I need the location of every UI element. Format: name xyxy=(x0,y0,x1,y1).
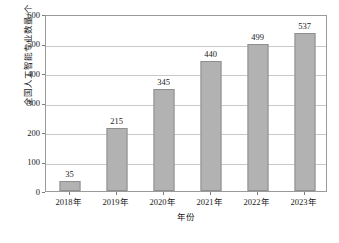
x-axis-tick-label: 2021年 xyxy=(197,197,223,208)
bar-value-label: 215 xyxy=(110,117,123,126)
x-axis-tick-mark xyxy=(210,192,211,195)
bar-slot: 215 xyxy=(93,16,140,191)
x-axis-tick-mark xyxy=(257,192,258,195)
y-axis-tick-label: 0 xyxy=(0,188,40,197)
bar-slot: 499 xyxy=(234,16,281,191)
y-axis-tick-label: 300 xyxy=(0,99,40,108)
bar[interactable] xyxy=(153,89,174,191)
x-axis-title: 年份 xyxy=(45,212,327,223)
x-axis-tick-mark xyxy=(304,192,305,195)
bar-slot: 440 xyxy=(187,16,234,191)
y-axis-tick-labels: 0100200300400500600 xyxy=(0,0,44,243)
bar[interactable] xyxy=(59,181,80,191)
bar[interactable] xyxy=(294,33,315,191)
x-axis-tick-label: 2018年 xyxy=(56,197,82,208)
x-axis-tick-mark xyxy=(163,192,164,195)
bars-group: 35215345440499537 xyxy=(46,16,326,191)
plot-area: 35215345440499537 xyxy=(45,15,327,192)
y-axis-tick-label: 500 xyxy=(0,40,40,49)
bar[interactable] xyxy=(247,44,268,191)
x-axis-tick-mark xyxy=(69,192,70,195)
bar-value-label: 35 xyxy=(65,170,74,179)
bar-value-label: 440 xyxy=(204,50,217,59)
bar-slot: 35 xyxy=(46,16,93,191)
x-axis-tick-label: 2019年 xyxy=(103,197,129,208)
bar-slot: 345 xyxy=(140,16,187,191)
bar-value-label: 537 xyxy=(298,22,311,31)
x-axis-tick-label: 2023年 xyxy=(291,197,317,208)
y-axis-tick-label: 200 xyxy=(0,129,40,138)
bar[interactable] xyxy=(106,128,127,191)
x-axis-tick-label: 2022年 xyxy=(244,197,270,208)
x-axis-tick-mark xyxy=(116,192,117,195)
bar-chart: 全国人工智能专业数量/个 0100200300400500600 3521534… xyxy=(0,0,339,243)
bar-slot: 537 xyxy=(281,16,328,191)
x-axis-tick-label: 2020年 xyxy=(150,197,176,208)
y-axis-tick-label: 600 xyxy=(0,11,40,20)
bar-value-label: 499 xyxy=(251,33,264,42)
bar-value-label: 345 xyxy=(157,78,170,87)
bar[interactable] xyxy=(200,61,221,191)
y-axis-tick-label: 400 xyxy=(0,70,40,79)
y-axis-tick-label: 100 xyxy=(0,158,40,167)
